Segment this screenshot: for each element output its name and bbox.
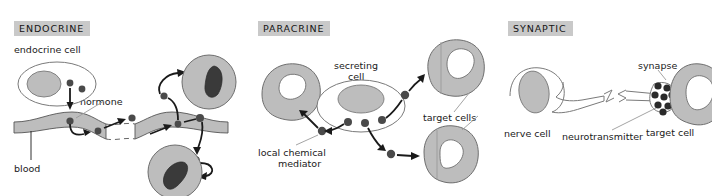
secretion-arrowhead bbox=[67, 102, 74, 110]
endocrine-cell-nucleus bbox=[27, 71, 61, 97]
endocrine-diagram bbox=[0, 0, 238, 196]
neurotransmitter-vesicle bbox=[651, 91, 658, 98]
hormone-dot-entering bbox=[66, 117, 73, 124]
hormone-leader-line bbox=[76, 101, 104, 118]
mediator-dot bbox=[344, 118, 352, 126]
mediator-dot bbox=[387, 150, 395, 158]
mediator-dot bbox=[361, 119, 369, 127]
panel-paracrine: PARACRINE secreting cell local chemical … bbox=[238, 0, 486, 196]
panel-endocrine: ENDOCRINE endocrine cell hormone blood bbox=[0, 0, 238, 196]
axon-break-left bbox=[604, 90, 614, 102]
hormone-dot bbox=[79, 86, 86, 93]
neurotransmitter-vesicle bbox=[654, 101, 661, 108]
mediator-arrowhead bbox=[411, 152, 420, 160]
mediator-dot bbox=[378, 116, 386, 124]
target-cells-leader-line-lower bbox=[462, 116, 478, 130]
neurotransmitter-vesicle bbox=[654, 82, 661, 89]
hormone-to-target-up bbox=[159, 73, 178, 94]
hormone-dot bbox=[196, 114, 204, 122]
secreting-cell-nucleus bbox=[338, 85, 384, 113]
blood-vessel-left bbox=[14, 112, 106, 139]
blood-vessel-right bbox=[135, 112, 228, 139]
hormone-dot bbox=[128, 114, 135, 121]
hormone-dot bbox=[67, 80, 74, 87]
hormone-dot bbox=[175, 121, 182, 128]
panel-synaptic: SYNAPTIC nerve cell synapse neurotransmi… bbox=[486, 0, 712, 196]
neurotransmitter-vesicle bbox=[663, 84, 670, 91]
hormone-dot bbox=[160, 92, 167, 99]
neurotransmitter-vesicle bbox=[660, 93, 667, 100]
mediator-path-to-left-target bbox=[304, 114, 318, 128]
mediator-path-lower-right2 bbox=[397, 155, 413, 156]
neurotransmitter-leader-line bbox=[612, 108, 656, 130]
mediator-arrowhead bbox=[324, 127, 332, 135]
paracrine-diagram bbox=[238, 0, 486, 196]
mediator-dot bbox=[401, 91, 409, 99]
neurotransmitter-vesicle bbox=[659, 108, 666, 115]
mediator-path-upper-right2 bbox=[409, 79, 421, 91]
mediator-leader-line bbox=[296, 135, 318, 145]
axon-break-right bbox=[618, 90, 626, 102]
target-cell-synaptic-nucleus bbox=[686, 76, 712, 110]
cell-signaling-figure: ENDOCRINE endocrine cell hormone blood bbox=[0, 0, 712, 196]
hormone-dot bbox=[95, 128, 102, 135]
synaptic-diagram bbox=[486, 0, 712, 196]
synapse-leader-line bbox=[658, 70, 666, 80]
